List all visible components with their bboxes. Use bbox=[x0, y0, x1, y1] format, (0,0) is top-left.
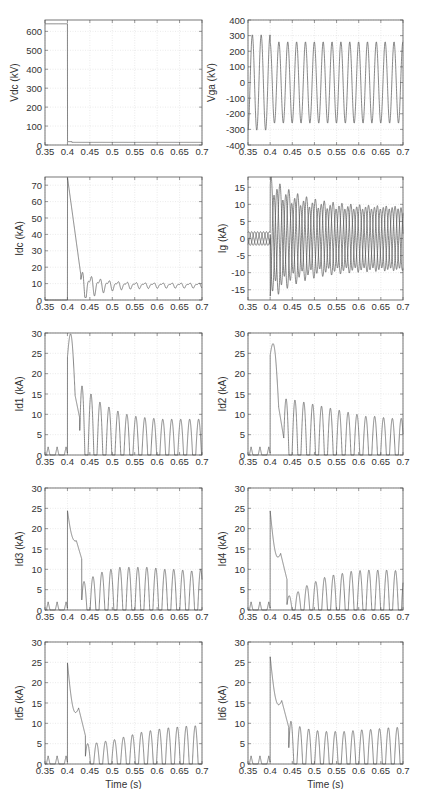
y-tick-label: 20 bbox=[234, 677, 245, 688]
x-tick-label: 0.7 bbox=[396, 765, 409, 776]
x-tick-label: 0.65 bbox=[372, 765, 391, 776]
x-tick-label: 0.45 bbox=[283, 765, 302, 776]
y-tick-label: 10 bbox=[234, 718, 245, 729]
x-tick-label: 0.6 bbox=[352, 765, 365, 776]
y-tick-label: 30 bbox=[234, 637, 245, 648]
chart-id6: 0.350.40.450.50.550.60.650.7051015202530… bbox=[0, 0, 426, 789]
y-tick-label: 0 bbox=[240, 759, 245, 770]
data-line bbox=[248, 657, 403, 764]
x-tick-label: 0.5 bbox=[308, 765, 321, 776]
y-axis-label: Id6 (kA) bbox=[217, 685, 228, 720]
y-tick-label: 5 bbox=[240, 738, 245, 749]
y-tick-label: 25 bbox=[234, 657, 245, 668]
y-tick-label: 15 bbox=[234, 698, 245, 709]
grid bbox=[248, 642, 403, 764]
x-tick-label: 0.55 bbox=[327, 765, 346, 776]
x-axis-label: Time (s) bbox=[307, 779, 343, 789]
x-tick-label: 0.4 bbox=[264, 765, 277, 776]
